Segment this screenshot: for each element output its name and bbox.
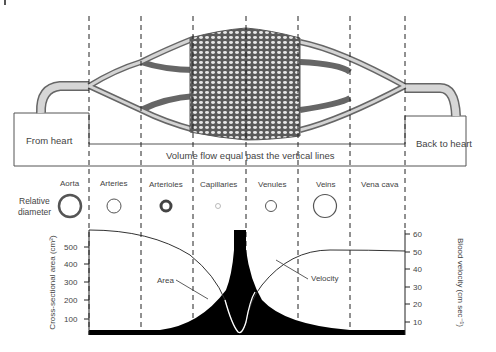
velocity-annotation: Velocity (311, 274, 339, 283)
left-tick-300: 300 (64, 278, 77, 287)
diameter-label: diameter (18, 207, 51, 217)
left-tick-200: 200 (64, 296, 77, 305)
right-tick-30: 30 (413, 283, 422, 292)
area-velocity-chart (84, 230, 410, 335)
arterioles-diameter-icon (161, 201, 171, 211)
flow-caption: Volume flow equal past the vertical line… (166, 150, 334, 161)
segment-label-arteries: Arteries (100, 179, 128, 188)
capillaries-diameter-icon (216, 204, 221, 209)
venules-diameter-icon (266, 201, 277, 212)
right-tick-60: 60 (413, 230, 422, 239)
segment-label-veins: Veins (316, 180, 336, 189)
right-tick-20: 20 (413, 300, 422, 309)
left-tick-400: 400 (64, 260, 77, 269)
right-tick-10: 10 (413, 318, 422, 327)
segment-label-capillaries: Capillaries (200, 180, 237, 189)
area-annotation: Area (157, 276, 174, 285)
back-to-heart-label: Back to heart (416, 138, 472, 149)
aorta-diameter-icon (59, 195, 81, 217)
left-tick-100: 100 (64, 315, 77, 324)
arteries-diameter-icon (107, 199, 121, 213)
left-tick-500: 500 (64, 243, 77, 252)
from-heart-label: From heart (26, 135, 72, 146)
veins-diameter-icon (314, 195, 337, 218)
right-tick-40: 40 (413, 265, 422, 274)
segment-label-venules: Venules (258, 180, 286, 189)
left-axis-title: Cross-sectional area (cm²) (48, 223, 57, 343)
right-axis-title: Blood velocity (cm sec⁻¹) (456, 223, 465, 343)
right-tick-50: 50 (413, 248, 422, 257)
segment-label-vena-cava: Vena cava (361, 180, 398, 189)
segment-label-arterioles: Arterioles (149, 180, 183, 189)
segment-label-aorta: Aorta (60, 179, 79, 188)
relative-label: Relative (19, 196, 50, 206)
